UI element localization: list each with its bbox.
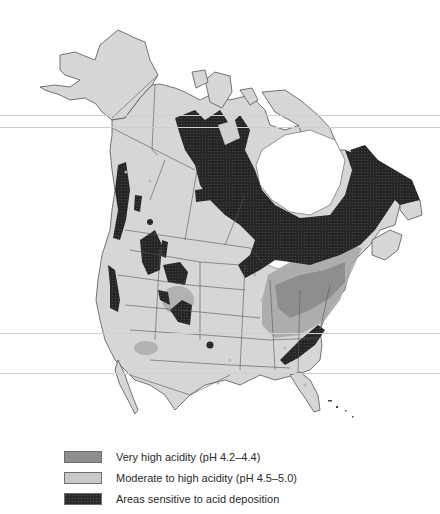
very-high-acidity-swatch <box>64 451 102 463</box>
scan-line <box>0 373 440 374</box>
sensitive-areas-swatch <box>64 493 102 505</box>
caribbean-islands <box>328 400 354 418</box>
moderate-acidity-swatch <box>64 472 102 484</box>
moderate-acidity-southwest <box>134 341 158 355</box>
scan-line <box>0 115 440 116</box>
scan-line <box>0 333 440 334</box>
scan-line <box>0 127 440 128</box>
legend-item-moderate-acidity: Moderate to high acidity (pH 4.5–5.0) <box>64 467 297 488</box>
legend-label: Very high acidity (pH 4.2–4.4) <box>116 451 260 463</box>
legend-item-very-high-acidity: Very high acidity (pH 4.2–4.4) <box>64 446 297 467</box>
map-legend: Very high acidity (pH 4.2–4.4) Moderate … <box>64 446 297 509</box>
legend-label: Areas sensitive to acid deposition <box>116 493 279 505</box>
legend-label: Moderate to high acidity (pH 4.5–5.0) <box>116 472 297 484</box>
legend-item-sensitive-areas: Areas sensitive to acid deposition <box>64 488 297 509</box>
north-america-map <box>0 0 440 440</box>
